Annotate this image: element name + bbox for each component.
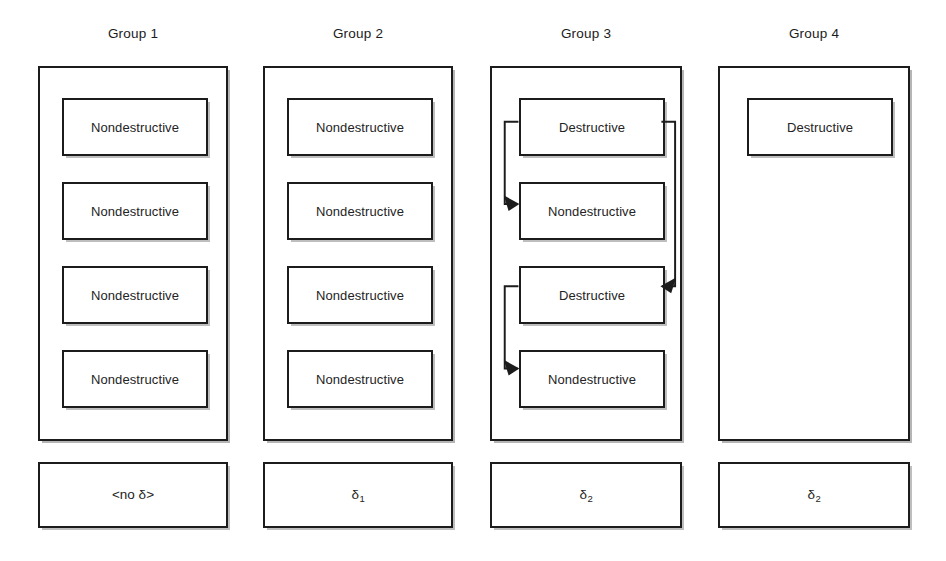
item-label: Nondestructive [91,373,179,386]
group-3-item-4-nondestructive: Nondestructive [519,350,665,408]
group-3-delta-box: δ2 [490,462,682,528]
group-2-container: NondestructiveNondestructiveNondestructi… [263,66,453,441]
item-label: Nondestructive [91,289,179,302]
group-2-delta-box: δ1 [263,462,453,528]
delta-subscript: 2 [816,493,821,504]
item-label: Nondestructive [548,205,636,218]
arrow-destructive1-to-nondestructive1 [504,122,520,211]
group-1-delta-box: <no δ> [38,462,228,528]
group-1-column: Group 1NondestructiveNondestructiveNonde… [38,0,228,561]
group-4-column: Group 4Destructiveδ2 [718,0,910,561]
group-1-title: Group 1 [38,26,228,41]
delta-symbol: <no δ> [112,487,154,502]
delta-label: δ2 [580,488,593,502]
group-3-container: DestructiveNondestructiveDestructiveNond… [490,66,682,441]
group-4-delta-box: δ2 [718,462,910,528]
delta-subscript: 1 [360,493,365,504]
group-4-container: Destructive [718,66,910,441]
item-label: Destructive [787,121,853,134]
group-2-item-1-nondestructive: Nondestructive [287,98,433,156]
delta-label: <no δ> [112,488,154,502]
group-3-item-3-destructive: Destructive [519,266,665,324]
item-label: Nondestructive [316,205,404,218]
item-label: Destructive [559,121,625,134]
item-label: Nondestructive [91,121,179,134]
group-2-column: Group 2NondestructiveNondestructiveNonde… [263,0,453,561]
group-3-item-2-nondestructive: Nondestructive [519,182,665,240]
delta-label: δ1 [352,488,365,502]
group-4-title: Group 4 [718,26,910,41]
item-label: Nondestructive [91,205,179,218]
group-3-item-1-destructive: Destructive [519,98,665,156]
group-1-item-1-nondestructive: Nondestructive [62,98,208,156]
item-label: Nondestructive [316,289,404,302]
item-label: Nondestructive [316,373,404,386]
item-label: Nondestructive [316,121,404,134]
arrow-destructive2-to-nondestructive2 [504,286,520,375]
group-3-column: Group 3DestructiveNondestructiveDestruct… [490,0,682,561]
item-label: Destructive [559,289,625,302]
group-1-item-3-nondestructive: Nondestructive [62,266,208,324]
group-2-item-2-nondestructive: Nondestructive [287,182,433,240]
group-3-title: Group 3 [490,26,682,41]
delta-symbol: δ [352,487,360,502]
group-1-item-2-nondestructive: Nondestructive [62,182,208,240]
group-4-item-1-destructive: Destructive [747,98,893,156]
delta-subscript: 2 [588,493,593,504]
group-1-item-4-nondestructive: Nondestructive [62,350,208,408]
delta-symbol: δ [580,487,588,502]
delta-symbol: δ [808,487,816,502]
item-label: Nondestructive [548,373,636,386]
delta-label: δ2 [808,488,821,502]
group-2-title: Group 2 [263,26,453,41]
diagram-canvas: Group 1NondestructiveNondestructiveNonde… [0,0,946,561]
group-2-item-4-nondestructive: Nondestructive [287,350,433,408]
group-1-container: NondestructiveNondestructiveNondestructi… [38,66,228,441]
group-2-item-3-nondestructive: Nondestructive [287,266,433,324]
